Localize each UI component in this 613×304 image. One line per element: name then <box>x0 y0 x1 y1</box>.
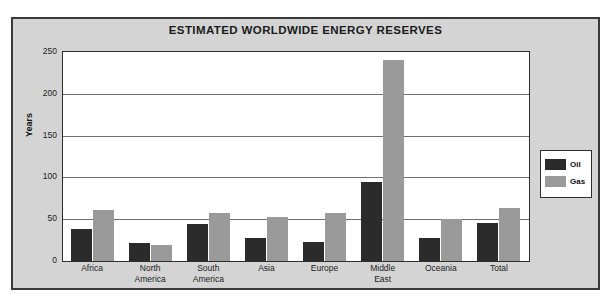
bar-gas <box>499 208 520 262</box>
x-axis-tick-line: America <box>121 274 179 285</box>
x-axis-tick-line: Middle <box>354 263 412 274</box>
legend-label: Gas <box>570 177 585 186</box>
x-axis-tick-line: Oceania <box>412 263 470 274</box>
bar-gas <box>151 245 172 261</box>
bar-gas <box>441 219 462 261</box>
bar-group <box>470 52 528 261</box>
y-axis-tick-label: 0 <box>52 255 57 265</box>
bar-group <box>354 52 412 261</box>
legend-swatch-gas <box>545 176 566 187</box>
x-axis-tick-line: Asia <box>237 263 295 274</box>
x-axis-tick-line: East <box>354 274 412 285</box>
bar-oil <box>303 242 324 261</box>
legend-item-oil[interactable]: Oil <box>545 156 587 173</box>
bar-oil <box>129 243 150 261</box>
x-axis-tick-label: Total <box>470 263 528 274</box>
bar-group <box>63 52 121 261</box>
x-axis-tick-label: SouthAmerica <box>179 263 237 285</box>
chart-figure: ESTIMATED WORLDWIDE ENERGY RESERVES 0501… <box>0 0 613 304</box>
x-axis-tick-label: MiddleEast <box>354 263 412 285</box>
y-axis-tick-label: 150 <box>43 130 57 140</box>
y-axis-tick-label: 50 <box>48 213 57 223</box>
bar-gas <box>93 210 114 261</box>
bar-group <box>179 52 237 261</box>
x-axis: AfricaNorthAmericaSouthAmericaAsiaEurope… <box>63 263 528 297</box>
legend-swatch-oil <box>545 159 566 170</box>
bars-layer <box>63 52 528 261</box>
bar-group <box>121 52 179 261</box>
y-axis-tick-label: 100 <box>43 171 57 181</box>
chart-legend: OilGas <box>540 150 592 198</box>
x-axis-tick-line: North <box>121 263 179 274</box>
y-axis-tick-label: 250 <box>43 46 57 56</box>
bar-gas <box>267 217 288 261</box>
y-axis-tick-label: 200 <box>43 88 57 98</box>
bar-gas <box>325 213 346 261</box>
bar-group <box>296 52 354 261</box>
bar-oil <box>245 238 266 261</box>
bar-oil <box>187 224 208 261</box>
x-axis-tick-label: Oceania <box>412 263 470 274</box>
x-axis-tick-line: South <box>179 263 237 274</box>
x-axis-tick-label: Africa <box>63 263 121 274</box>
bar-oil <box>419 238 440 261</box>
bar-oil <box>477 223 498 261</box>
legend-item-gas[interactable]: Gas <box>545 173 587 190</box>
bar-oil <box>361 182 382 261</box>
bar-group <box>412 52 470 261</box>
legend-label: Oil <box>570 160 581 169</box>
x-axis-tick-label: Europe <box>296 263 354 274</box>
x-axis-tick-line: Africa <box>63 263 121 274</box>
chart-title: ESTIMATED WORLDWIDE ENERGY RESERVES <box>13 24 598 36</box>
y-axis-title: Years <box>24 113 34 137</box>
x-axis-tick-label: NorthAmerica <box>121 263 179 285</box>
bar-group <box>237 52 295 261</box>
bar-gas <box>383 60 404 261</box>
x-axis-tick-label: Asia <box>237 263 295 274</box>
chart-panel: ESTIMATED WORLDWIDE ENERGY RESERVES 0501… <box>11 17 600 290</box>
x-axis-tick-line: America <box>179 274 237 285</box>
x-axis-tick-line: Europe <box>296 263 354 274</box>
x-axis-tick-line: Total <box>470 263 528 274</box>
bar-gas <box>209 213 230 261</box>
bar-oil <box>71 229 92 261</box>
